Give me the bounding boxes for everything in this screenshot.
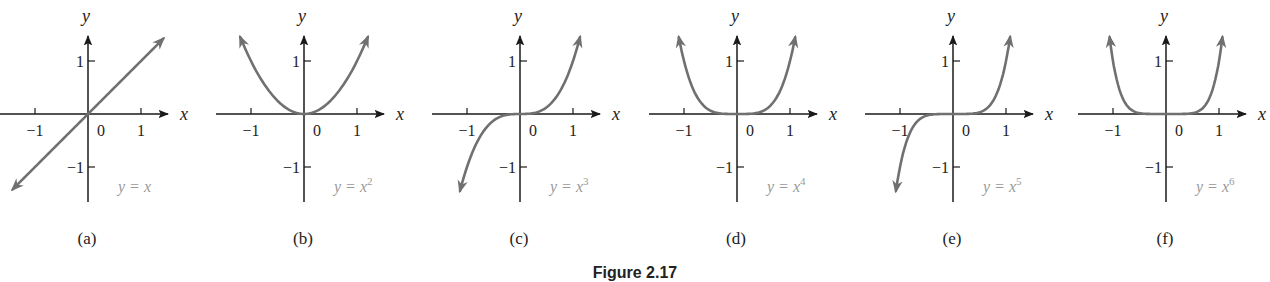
panel-c: −1011−1xyy = x3(c) — [432, 6, 620, 248]
x-tick-label-neg1: −1 — [458, 122, 475, 139]
x-axis-label: x — [1044, 104, 1053, 124]
x-axis-label: x — [1257, 104, 1266, 124]
x-axis-label: x — [611, 104, 620, 124]
panel-label: (b) — [293, 229, 313, 248]
y-tick-label-neg1: −1 — [283, 159, 300, 176]
y-tick-label-1: 1 — [1154, 53, 1162, 70]
y-axis-label: y — [1158, 6, 1168, 26]
x-axis-label: x — [179, 104, 188, 124]
panel-label: (c) — [510, 229, 529, 248]
panel-label: (d) — [726, 229, 746, 248]
y-tick-label-neg1: −1 — [716, 159, 733, 176]
y-tick-label-neg1: −1 — [1145, 159, 1162, 176]
y-tick-label-1: 1 — [292, 53, 300, 70]
y-tick-label-1: 1 — [725, 53, 733, 70]
equation-label: y = x6 — [1194, 175, 1235, 196]
x-tick-label-neg1: −1 — [675, 122, 692, 139]
figure-caption: Figure 2.17 — [0, 264, 1270, 282]
x-tick-label-neg1: −1 — [1104, 122, 1121, 139]
x-tick-label-1: 1 — [786, 122, 794, 139]
x-tick-label-0: 0 — [529, 122, 537, 139]
panel-a: −1011−1xyy = x(a) — [0, 6, 188, 248]
panel-b: −1011−1xyy = x2(b) — [216, 6, 404, 248]
equation-label: y = x — [116, 178, 151, 196]
panel-d: −1011−1xyy = x4(d) — [649, 6, 837, 248]
x-axis-label: x — [395, 104, 404, 124]
panel-label: (e) — [943, 229, 962, 248]
x-tick-label-neg1: −1 — [242, 122, 259, 139]
x-tick-label-1: 1 — [353, 122, 361, 139]
y-tick-label-1: 1 — [941, 53, 949, 70]
panel-e: −1011−1xyy = x5(e) — [865, 6, 1053, 248]
equation-label: y = x2 — [332, 175, 373, 196]
x-tick-label-1: 1 — [137, 122, 145, 139]
y-tick-label-1: 1 — [508, 53, 516, 70]
y-axis-label: y — [80, 6, 90, 26]
y-axis-label: y — [729, 6, 739, 26]
y-tick-label-neg1: −1 — [932, 159, 949, 176]
x-axis-label: x — [828, 104, 837, 124]
x-tick-label-0: 0 — [962, 122, 970, 139]
panel-f: −1011−1xyy = x6(f) — [1078, 6, 1266, 248]
equation-label: y = x5 — [981, 175, 1022, 196]
equation-label: y = x3 — [548, 175, 589, 196]
x-tick-label-0: 0 — [97, 122, 105, 139]
x-tick-label-1: 1 — [1002, 122, 1010, 139]
x-tick-label-1: 1 — [1215, 122, 1223, 139]
x-tick-label-1: 1 — [569, 122, 577, 139]
y-tick-label-neg1: −1 — [499, 159, 516, 176]
panel-label: (f) — [1157, 229, 1174, 248]
x-tick-label-neg1: −1 — [26, 122, 43, 139]
x-tick-label-neg1: −1 — [891, 122, 908, 139]
x-tick-label-0: 0 — [1175, 122, 1183, 139]
x-tick-label-0: 0 — [746, 122, 754, 139]
x-tick-label-0: 0 — [313, 122, 321, 139]
y-tick-label-1: 1 — [76, 53, 84, 70]
panel-label: (a) — [78, 229, 97, 248]
y-tick-label-neg1: −1 — [67, 159, 84, 176]
equation-label: y = x4 — [765, 175, 806, 196]
y-axis-label: y — [945, 6, 955, 26]
y-axis-label: y — [512, 6, 522, 26]
y-axis-label: y — [296, 6, 306, 26]
